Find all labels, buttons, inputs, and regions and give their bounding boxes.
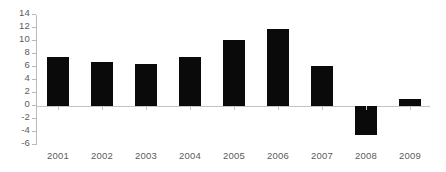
x-tick-mark: [366, 106, 367, 110]
bar: [399, 99, 421, 106]
y-tick-label: 2: [25, 86, 30, 96]
y-tick-label: -4: [21, 125, 30, 135]
x-axis-label: 2003: [124, 151, 168, 161]
bar: [223, 40, 245, 106]
bar: [179, 57, 201, 106]
plot-area: [36, 15, 432, 145]
y-tick-label: 12: [19, 21, 30, 31]
x-axis-label: 2009: [388, 151, 432, 161]
y-tick-label: 0: [25, 99, 30, 109]
x-axis-label: 2007: [300, 151, 344, 161]
bar: [91, 62, 113, 106]
x-tick-mark: [58, 106, 59, 110]
x-axis-label: 2008: [344, 151, 388, 161]
y-tick-label: -2: [21, 112, 30, 122]
x-tick-mark: [278, 106, 279, 110]
x-axis-label: 2002: [80, 151, 124, 161]
y-tick-label: 10: [19, 34, 30, 44]
x-axis-label: 2005: [212, 151, 256, 161]
y-tick-label: 6: [25, 60, 30, 70]
bar: [267, 29, 289, 106]
x-tick-mark: [146, 106, 147, 110]
x-tick-mark: [234, 106, 235, 110]
y-tick-label: -6: [21, 138, 30, 148]
x-tick-mark: [322, 106, 323, 110]
bar: [47, 57, 69, 106]
x-tick-mark: [410, 106, 411, 110]
y-tick-label: 8: [25, 47, 30, 57]
bar-chart: 14121086420-2-4-6 2001200220032004200520…: [0, 0, 446, 172]
bar: [355, 106, 377, 135]
y-tick-label: 14: [19, 8, 30, 18]
x-axis-label: 2004: [168, 151, 212, 161]
x-tick-mark: [190, 106, 191, 110]
bar: [311, 66, 333, 106]
x-axis-label: 2001: [36, 151, 80, 161]
y-tick-label: 4: [25, 73, 30, 83]
x-tick-mark: [102, 106, 103, 110]
x-axis-label: 2006: [256, 151, 300, 161]
bar: [135, 64, 157, 106]
